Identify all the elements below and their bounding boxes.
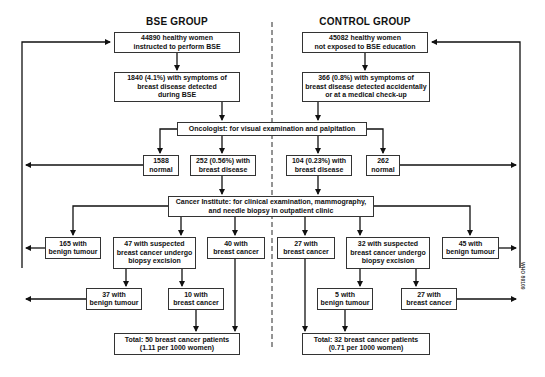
- control-group-title: CONTROL GROUP: [302, 16, 428, 27]
- bse-group-title: BSE GROUP: [114, 16, 240, 27]
- control-suspected-box: 32 with suspected breast cancer undergo …: [346, 237, 430, 269]
- cancer-institute-box: Cancer Institute: for clinical examinati…: [168, 196, 374, 217]
- flow-connectors: [0, 0, 545, 377]
- bse-biopsy-benign-box: 37 with benign tumour: [86, 288, 142, 310]
- control-biopsy-cancer-box: 27 with breast cancer: [401, 288, 457, 310]
- bse-disease-box: 252 (0.56%) with breast disease: [190, 155, 256, 176]
- control-biopsy-benign-box: 5 with benign tumour: [317, 288, 373, 310]
- control-benign-box: 45 with benign tumour: [442, 237, 499, 259]
- bse-cancer-box: 40 with breast cancer: [207, 237, 265, 259]
- oncologist-box: Oncologist: for visual examination and p…: [177, 122, 367, 136]
- control-start-box: 45082 healthy women not exposed to BSE e…: [302, 32, 428, 53]
- control-normal-box: 262 normal: [366, 155, 400, 176]
- bse-start-box: 44890 healthy women instructed to perfor…: [114, 32, 240, 53]
- bse-total-box: Total: 50 breast cancer patients (1.11 p…: [114, 333, 240, 355]
- figure-code: WHO 89109: [520, 262, 526, 290]
- bse-symptoms-box: 1840 (4.1%) with symptoms of breast dise…: [114, 72, 240, 102]
- control-symptoms-box: 366 (0.8%) with symptoms of breast disea…: [302, 72, 430, 102]
- bse-benign-box: 165 with benign tumour: [45, 237, 101, 259]
- control-total-box: Total: 32 breast cancer patients (0.71 p…: [302, 333, 430, 355]
- control-disease-box: 104 (0.23%) with breast disease: [286, 155, 352, 176]
- bse-biopsy-cancer-box: 10 with breast cancer: [168, 288, 224, 310]
- control-cancer-box: 27 with breast cancer: [277, 237, 335, 259]
- bse-suspected-box: 47 with suspected breast cancer undergo …: [113, 237, 196, 269]
- bse-normal-box: 1588 normal: [143, 155, 179, 176]
